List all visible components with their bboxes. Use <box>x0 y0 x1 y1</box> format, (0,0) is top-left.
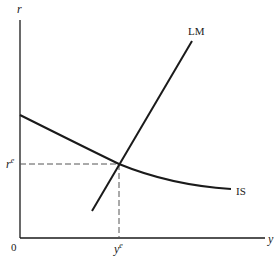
y-equilibrium-label: ye <box>113 241 123 256</box>
lm-label: LM <box>188 25 205 37</box>
r-equilibrium-label: re <box>6 156 15 171</box>
y-equilibrium-sup: e <box>119 241 123 250</box>
r-equilibrium-sup: e <box>11 156 15 165</box>
r-axis-label: r <box>17 2 22 16</box>
y-axis-label: y <box>267 232 274 246</box>
lm-curve <box>92 41 192 211</box>
is-lm-diagram: r y 0 LM IS re ye <box>0 0 277 258</box>
origin-label: 0 <box>11 241 17 253</box>
is-curve <box>20 115 231 189</box>
is-label: IS <box>236 185 246 197</box>
